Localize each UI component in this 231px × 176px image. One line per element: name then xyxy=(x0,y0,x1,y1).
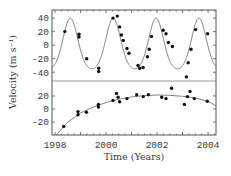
data-point xyxy=(185,75,188,78)
data-point xyxy=(97,67,100,70)
data-point xyxy=(164,32,167,35)
data-point xyxy=(189,48,192,51)
data-point xyxy=(118,25,121,28)
top-y-axis-ticks: 40200-20-40 xyxy=(32,13,216,78)
radial-velocity-chart: 40200-20-40 200-20 1998200020022004 Time… xyxy=(0,0,231,176)
bottom-data-points xyxy=(62,87,209,129)
top-panel-orbit-fit: 40200-20-40 xyxy=(32,13,216,78)
data-point xyxy=(85,57,88,60)
data-point xyxy=(206,32,209,35)
data-point xyxy=(150,35,153,38)
data-point xyxy=(62,125,65,128)
data-point xyxy=(127,52,130,55)
y-tick-label: -20 xyxy=(32,117,49,128)
y-tick-label: -40 xyxy=(32,68,49,79)
data-point xyxy=(206,100,209,103)
y-tick-label: -20 xyxy=(32,54,49,65)
data-point xyxy=(167,41,170,44)
data-point xyxy=(164,97,167,100)
data-point xyxy=(111,99,114,102)
y-tick-label: 40 xyxy=(38,13,50,24)
data-point xyxy=(76,113,79,116)
data-point xyxy=(77,35,80,38)
data-point xyxy=(141,66,144,69)
data-point xyxy=(63,30,66,33)
data-point xyxy=(187,61,190,64)
y-tick-label: 20 xyxy=(38,27,50,38)
data-point xyxy=(160,96,163,99)
data-point xyxy=(147,93,150,96)
data-point xyxy=(97,105,100,108)
data-point xyxy=(148,48,151,51)
data-point xyxy=(186,95,189,98)
data-point xyxy=(97,70,100,73)
x-tick-label: 2002 xyxy=(146,140,169,151)
y-tick-label: 0 xyxy=(43,40,49,51)
data-point xyxy=(118,100,121,103)
data-point xyxy=(170,87,173,90)
data-point xyxy=(142,95,145,98)
data-point xyxy=(115,92,118,95)
data-point xyxy=(162,29,165,32)
data-point xyxy=(193,97,196,100)
x-tick-label: 2004 xyxy=(197,140,220,151)
data-point xyxy=(138,67,141,70)
trend-fit-line xyxy=(56,95,216,135)
data-point xyxy=(125,97,128,100)
y-tick-label: 0 xyxy=(43,104,49,115)
data-point xyxy=(116,14,119,17)
data-point xyxy=(76,110,79,113)
data-point xyxy=(194,28,197,31)
data-point xyxy=(122,39,125,42)
data-point xyxy=(183,103,186,106)
top-fit-curve xyxy=(52,18,216,69)
x-tick-label: 1998 xyxy=(44,140,67,151)
orbit-fit-line xyxy=(52,18,216,69)
y-tick-label: 20 xyxy=(38,91,50,102)
data-point xyxy=(146,55,149,58)
data-point xyxy=(188,90,191,93)
data-point xyxy=(135,93,138,96)
x-tick-label: 2000 xyxy=(95,140,118,151)
data-point xyxy=(125,47,128,50)
y-axis-title: Velocity (m s⁻¹) xyxy=(7,35,18,110)
bottom-trend-curve xyxy=(56,95,216,135)
data-point xyxy=(85,111,88,114)
data-point xyxy=(120,33,123,36)
bottom-panel-residual-trend: 200-20 xyxy=(32,87,216,136)
data-point xyxy=(116,96,119,99)
x-axis-title: Time (Years) xyxy=(104,151,165,162)
data-point xyxy=(171,45,174,48)
data-point xyxy=(111,16,114,19)
